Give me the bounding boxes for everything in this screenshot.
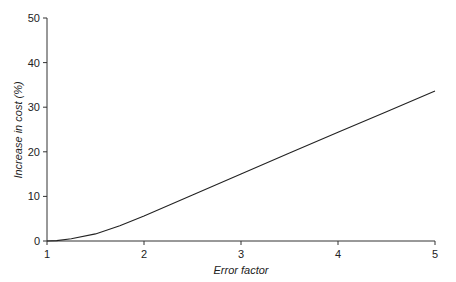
x-tick-label: 2 [141, 248, 147, 260]
y-tick-label: 20 [28, 146, 40, 158]
x-tick-label: 3 [238, 248, 244, 260]
y-axis: 01020304050 [28, 12, 47, 247]
y-axis-title: Increase in cost (%) [12, 81, 24, 179]
x-axis: 12345 [44, 241, 438, 260]
x-tick-label: 4 [335, 248, 341, 260]
x-axis-title: Error factor [213, 264, 269, 276]
y-tick-label: 10 [28, 190, 40, 202]
cost-increase-line [47, 91, 435, 241]
y-tick-label: 30 [28, 101, 40, 113]
y-tick-label: 40 [28, 57, 40, 69]
line-chart: 01020304050 12345 Error factor Increase … [0, 0, 456, 282]
x-tick-label: 5 [432, 248, 438, 260]
y-tick-label: 50 [28, 12, 40, 24]
x-tick-label: 1 [44, 248, 50, 260]
y-tick-label: 0 [34, 235, 40, 247]
